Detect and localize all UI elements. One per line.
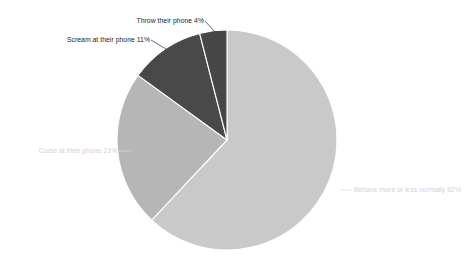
pie-label-scream-at-their-phone: Scream at their phone 11% [67, 36, 150, 44]
leader-line-throw-their-phone [205, 21, 215, 32]
pie-slices [117, 30, 337, 250]
pie-label-throw-their-phone: Throw their phone 4% [137, 17, 205, 25]
pie-label-behave-more-or-less-normally: Behave more or less normally 62% [354, 186, 461, 194]
pie-chart-figure: Throw their phone 4% Scream at their pho… [0, 0, 474, 269]
pie-label-curse-at-their-phone: Curse at their phone 23% [39, 147, 117, 155]
pie-chart-canvas: Throw their phone 4% Scream at their pho… [0, 0, 474, 269]
leader-line-scream-at-their-phone [151, 40, 166, 49]
